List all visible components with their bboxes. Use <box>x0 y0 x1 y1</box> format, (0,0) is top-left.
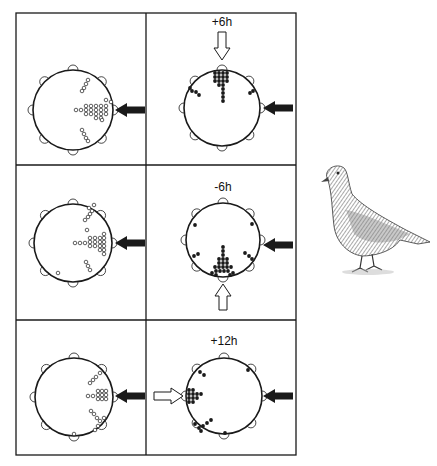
observation-open-dot <box>89 112 93 116</box>
observation-filled-dot <box>221 71 225 75</box>
observation-filled-dot <box>250 257 254 261</box>
observation-open-dot <box>99 112 103 116</box>
observation-open-dot <box>83 218 87 222</box>
observation-open-dot <box>96 389 100 393</box>
observation-filled-dot <box>193 422 197 426</box>
observation-open-dot <box>98 244 102 248</box>
observation-open-dot <box>84 108 88 112</box>
observation-open-dot <box>92 412 96 416</box>
observation-open-dot <box>74 108 78 112</box>
observation-filled-dot <box>198 370 202 374</box>
light-source-arrow-icon <box>115 236 145 250</box>
observation-filled-dot <box>195 396 199 400</box>
observation-open-dot <box>92 203 96 207</box>
observation-filled-dot <box>225 261 229 265</box>
observation-filled-dot <box>221 87 225 91</box>
observation-open-dot <box>86 78 90 82</box>
observation-open-dot <box>104 98 108 102</box>
light-source-arrow-icon <box>115 103 145 117</box>
observation-filled-dot <box>225 265 229 269</box>
pigeon-icon <box>321 166 430 275</box>
observation-open-dot <box>79 108 83 112</box>
observation-open-dot <box>96 424 100 428</box>
observation-filled-dot <box>221 265 225 269</box>
observation-filled-dot <box>213 79 217 83</box>
observation-open-dot <box>98 419 102 423</box>
observation-filled-dot <box>194 90 198 94</box>
observation-open-dot <box>94 116 98 120</box>
panel-control-top <box>28 65 145 155</box>
observation-open-dot <box>93 428 97 432</box>
observation-open-dot <box>100 397 104 401</box>
observation-open-dot <box>100 389 104 393</box>
observation-open-dot <box>84 82 88 86</box>
panel-control-middle <box>29 199 145 287</box>
observation-filled-dot <box>196 252 200 256</box>
observation-open-dot <box>89 108 93 112</box>
observation-filled-dot <box>225 257 229 261</box>
observation-filled-dot <box>248 91 252 95</box>
observation-filled-dot <box>217 265 221 269</box>
observation-filled-dot <box>201 424 205 428</box>
observation-open-dot <box>102 240 106 244</box>
observation-filled-dot <box>221 79 225 83</box>
observation-open-dot <box>86 139 90 143</box>
observation-filled-dot <box>218 269 222 273</box>
observation-open-dot <box>94 108 98 112</box>
observation-open-dot <box>93 244 97 248</box>
observation-filled-dot <box>213 75 217 79</box>
clock-shift-label: +12h <box>210 334 237 348</box>
observation-open-dot <box>89 104 93 108</box>
observation-filled-dot <box>202 373 206 377</box>
observation-open-dot <box>98 236 102 240</box>
observation-filled-dot <box>187 388 191 392</box>
observation-open-dot <box>104 397 108 401</box>
light-source-arrow-icon <box>263 238 293 252</box>
observation-filled-dot <box>197 93 201 97</box>
observation-open-dot <box>104 112 108 116</box>
light-source-arrow-icon <box>263 101 293 115</box>
observation-open-dot <box>78 241 82 245</box>
observation-open-dot <box>99 108 103 112</box>
observation-filled-dot <box>199 429 203 433</box>
observation-open-dot <box>80 128 84 132</box>
observation-filled-dot <box>193 223 197 227</box>
observation-open-dot <box>93 240 97 244</box>
observation-filled-dot <box>247 254 251 258</box>
experiment-figure: +6h-6h+12h <box>0 0 437 466</box>
light-source-arrow-icon <box>115 389 145 403</box>
observation-filled-dot <box>217 261 221 265</box>
observation-filled-dot <box>217 79 221 83</box>
observation-open-dot <box>94 375 98 379</box>
observation-open-dot <box>98 240 102 244</box>
observation-filled-dot <box>221 245 225 249</box>
observation-open-dot <box>94 112 98 116</box>
observation-open-dot <box>73 241 77 245</box>
observation-filled-dot <box>217 71 221 75</box>
observation-filled-dot <box>214 273 218 277</box>
observation-filled-dot <box>187 400 191 404</box>
observation-filled-dot <box>221 95 225 99</box>
observation-filled-dot <box>226 269 230 273</box>
observation-open-dot <box>104 108 108 112</box>
observation-filled-dot <box>217 75 221 79</box>
observation-filled-dot <box>225 79 229 83</box>
observation-open-dot <box>88 381 92 385</box>
observation-filled-dot <box>191 388 195 392</box>
panel-shift-minus6: -6h <box>181 180 293 310</box>
observation-filled-dot <box>221 83 225 87</box>
observation-filled-dot <box>228 273 232 277</box>
clock-shift-label: -6h <box>214 180 231 194</box>
observation-open-dot <box>82 132 86 136</box>
clock-shift-arrow-icon <box>214 32 230 60</box>
observation-filled-dot <box>221 75 225 79</box>
observation-open-dot <box>89 409 93 413</box>
observation-filled-dot <box>209 418 213 422</box>
observation-open-dot <box>104 104 108 108</box>
observation-filled-dot <box>223 431 227 435</box>
observation-open-dot <box>80 89 84 93</box>
observation-filled-dot <box>213 265 217 269</box>
observation-filled-dot <box>221 249 225 253</box>
observation-filled-dot <box>221 99 225 103</box>
observation-filled-dot <box>217 257 221 261</box>
